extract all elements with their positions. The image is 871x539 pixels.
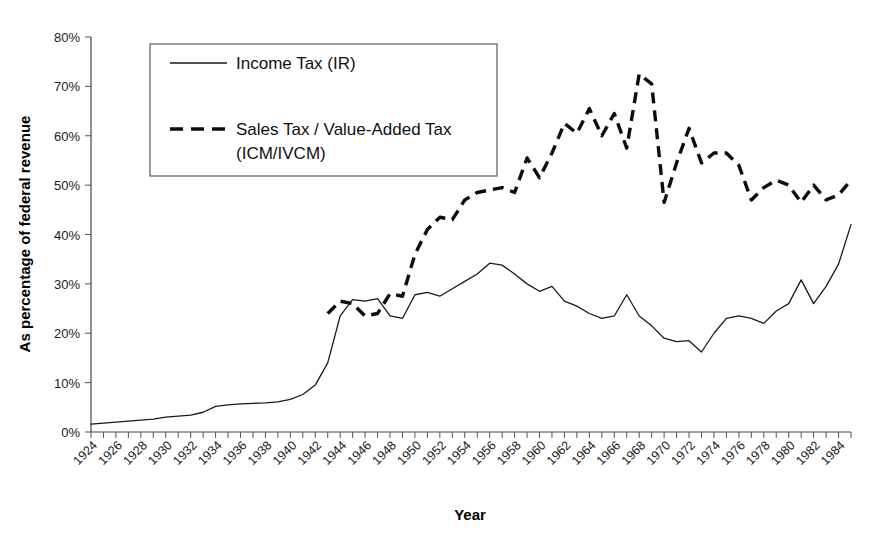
chart-canvas: As percentage of federal revenue 0%10%20… — [0, 0, 871, 539]
y-tick-label: 50% — [54, 178, 80, 193]
y-tick-label: 70% — [54, 79, 80, 94]
x-tick-label: 1958 — [494, 438, 524, 468]
x-tick-label: 1926 — [95, 438, 125, 468]
x-tick-label: 1966 — [594, 438, 624, 468]
x-tick-label: 1964 — [569, 438, 599, 468]
x-tick-label: 1946 — [345, 438, 375, 468]
x-tick-label: 1948 — [370, 438, 400, 468]
x-tick-label: 1976 — [718, 438, 748, 468]
x-tick-label: 1970 — [644, 438, 674, 468]
y-axis-ticks: 0%10%20%30%40%50%60%70%80% — [54, 30, 91, 440]
y-tick-label: 20% — [54, 326, 80, 341]
legend-label-income-tax: Income Tax (IR) — [236, 54, 356, 73]
x-tick-label: 1934 — [195, 438, 225, 468]
y-tick-label: 0% — [61, 425, 80, 440]
x-tick-label: 1980 — [768, 438, 798, 468]
x-tick-label: 1942 — [295, 438, 325, 468]
x-tick-label: 1974 — [694, 438, 724, 468]
x-tick-label: 1968 — [619, 438, 649, 468]
y-tick-label: 60% — [54, 129, 80, 144]
x-tick-label: 1932 — [170, 438, 200, 468]
y-tick-label: 10% — [54, 376, 80, 391]
x-tick-label: 1956 — [469, 438, 499, 468]
x-tick-label: 1982 — [793, 438, 823, 468]
x-tick-label: 1978 — [743, 438, 773, 468]
series-line-income-tax — [91, 225, 851, 424]
chart-legend: Income Tax (IR) Sales Tax / Value-Added … — [150, 44, 497, 176]
y-axis-title: As percentage of federal revenue — [16, 116, 33, 353]
y-axis-title-text: As percentage of federal revenue — [16, 116, 33, 353]
y-tick-label: 40% — [54, 228, 80, 243]
x-tick-label: 1936 — [220, 438, 250, 468]
x-tick-label: 1962 — [544, 438, 574, 468]
chart-figure: As percentage of federal revenue 0%10%20… — [0, 0, 871, 539]
x-tick-label: 1938 — [245, 438, 275, 468]
legend-label-sales-tax-line2: (ICM/IVCM) — [236, 144, 326, 163]
x-tick-label: 1944 — [320, 438, 350, 468]
x-tick-label: 1924 — [71, 438, 101, 468]
x-tick-label: 1952 — [419, 438, 449, 468]
x-tick-label: 1930 — [145, 438, 175, 468]
x-tick-label: 1954 — [444, 438, 474, 468]
x-axis-title-text: Year — [454, 506, 486, 523]
legend-label-sales-tax-line1: Sales Tax / Value-Added Tax — [236, 120, 452, 139]
x-tick-label: 1960 — [519, 438, 549, 468]
x-tick-label: 1984 — [818, 438, 848, 468]
y-tick-label: 80% — [54, 30, 80, 45]
y-tick-label: 30% — [54, 277, 80, 292]
x-tick-label: 1972 — [669, 438, 699, 468]
x-tick-label: 1928 — [120, 438, 150, 468]
x-tick-label: 1940 — [270, 438, 300, 468]
x-axis-ticks: 1924192619281930193219341936193819401942… — [71, 432, 851, 468]
x-tick-label: 1950 — [394, 438, 424, 468]
